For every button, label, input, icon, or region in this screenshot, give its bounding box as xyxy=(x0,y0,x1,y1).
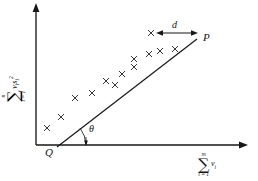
point-label-p: P xyxy=(203,32,210,43)
d-arrowhead-right xyxy=(191,30,198,36)
scatter-marker xyxy=(131,64,137,70)
x-axis-body-sub: i xyxy=(214,163,216,169)
scatter-marker xyxy=(131,56,137,62)
x-axis-body: vi xyxy=(211,160,216,170)
angle-theta-arc xyxy=(80,128,88,146)
scatter-marker xyxy=(44,125,50,131)
point-label-q: Q xyxy=(45,147,53,158)
x-axis-lower-limit: i = 1 xyxy=(198,172,209,178)
figure-container: P Q θ d m ∑ i = 1 vi n ∑ i = 1 visi2 xyxy=(0,0,258,181)
regression-line-QP xyxy=(57,39,197,147)
scatter-marker xyxy=(58,114,64,120)
scatter-marker xyxy=(148,30,154,36)
angle-label-theta: θ xyxy=(89,124,94,134)
y-axis-label: n ∑ i = 1 visi2 xyxy=(3,59,25,119)
y-axis-expression: n ∑ i = 1 visi2 xyxy=(1,76,26,101)
distance-d-arrow xyxy=(156,30,198,36)
y-axis-body-var: v xyxy=(10,85,19,89)
scatter-marker xyxy=(146,51,152,57)
distance-label-d: d xyxy=(172,20,177,30)
y-axis-arrowhead xyxy=(33,3,40,12)
sigma-icon: ∑ xyxy=(7,90,20,101)
y-axis-body-sub2: i xyxy=(14,79,20,81)
y-axis xyxy=(33,3,40,145)
x-axis-label: m ∑ i = 1 vi xyxy=(198,152,216,177)
y-axis-body: visi2 xyxy=(8,76,20,89)
plot-canvas xyxy=(0,0,258,181)
d-arrowhead-left xyxy=(156,30,163,36)
y-axis-body-sup: 2 xyxy=(8,76,14,79)
y-axis-lower-limit: i = 1 xyxy=(21,91,27,102)
y-axis-body-var2: s xyxy=(10,81,19,84)
scatter-markers xyxy=(44,30,178,131)
scatter-marker xyxy=(119,71,125,77)
scatter-marker xyxy=(157,48,163,54)
x-axis-sigma-stack: m ∑ i = 1 xyxy=(198,152,209,177)
scatter-marker xyxy=(112,82,118,88)
x-axis xyxy=(36,142,248,149)
scatter-marker xyxy=(172,46,178,52)
y-axis-sigma-stack: n ∑ i = 1 xyxy=(1,90,26,101)
x-axis-arrowhead xyxy=(239,142,248,149)
scatter-marker xyxy=(103,78,109,84)
scatter-marker xyxy=(72,95,78,101)
scatter-marker xyxy=(89,90,95,96)
sigma-icon: ∑ xyxy=(198,158,209,171)
